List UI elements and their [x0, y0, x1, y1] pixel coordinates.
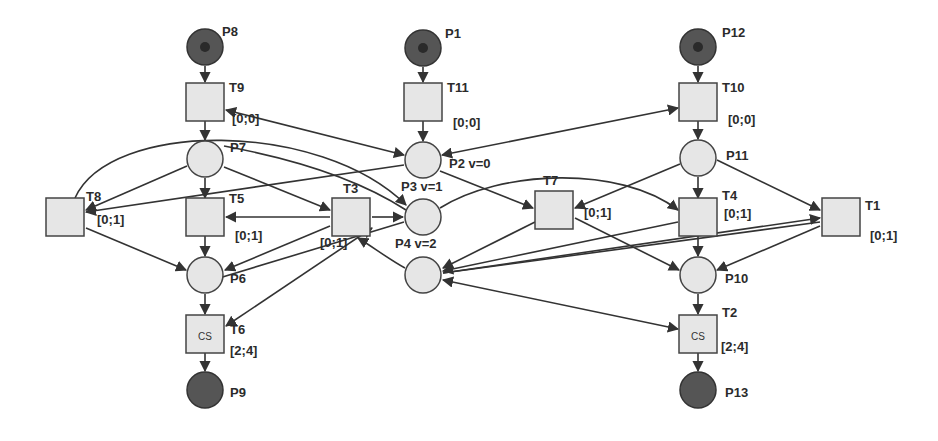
transition-box[interactable] — [186, 83, 224, 121]
arc — [440, 171, 533, 208]
place-p13[interactable]: P13 — [680, 372, 748, 408]
arc — [443, 280, 678, 329]
transition-interval: [0;0] — [453, 115, 480, 130]
place-label: P13 — [725, 385, 748, 400]
transition-interval: [2;4] — [230, 343, 257, 358]
place-circle[interactable] — [187, 372, 223, 408]
transition-t2[interactable]: CST2[2;4] — [679, 305, 748, 354]
place-circle[interactable] — [405, 199, 441, 235]
transition-label: T9 — [229, 80, 244, 95]
place-circle[interactable] — [187, 141, 223, 177]
transition-interval: [0;0] — [728, 112, 755, 127]
transition-box[interactable] — [46, 198, 84, 236]
transition-label: T4 — [722, 188, 738, 203]
token-icon — [200, 42, 210, 52]
transition-box[interactable] — [186, 198, 224, 236]
transition-box[interactable] — [679, 198, 717, 236]
place-p6[interactable]: P6 — [187, 257, 246, 293]
transition-label: T2 — [722, 305, 737, 320]
transition-box[interactable] — [404, 83, 442, 121]
transition-box[interactable] — [822, 198, 860, 236]
transition-t6[interactable]: CST6[2;4] — [186, 315, 257, 358]
place-circle[interactable] — [405, 142, 441, 178]
transition-inner-label: CS — [691, 331, 705, 342]
transition-label: T10 — [722, 80, 744, 95]
token-icon — [693, 42, 703, 52]
transition-inner-label: CS — [198, 331, 212, 342]
place-p9[interactable]: P9 — [187, 372, 246, 408]
transition-interval: [0;1] — [320, 235, 347, 250]
arc — [717, 226, 820, 270]
place-p10[interactable]: P10 — [680, 257, 748, 293]
place-label: P7 — [230, 140, 246, 155]
transition-t9[interactable]: T9[0;0] — [186, 80, 259, 126]
transition-label: T3 — [343, 181, 358, 196]
transition-interval: [0;1] — [870, 228, 897, 243]
petri-net-diagram: P8P7P6P9P1P2 v=0P3 v=1P4 v=2P12P11P10P13… — [0, 0, 938, 441]
place-p4[interactable]: P4 v=2 — [395, 236, 441, 293]
transition-t11[interactable]: T11[0;0] — [404, 80, 480, 130]
place-label: P6 — [230, 271, 246, 286]
place-p8[interactable]: P8 — [187, 24, 238, 65]
place-circle[interactable] — [680, 257, 716, 293]
transition-interval: [0;1] — [584, 205, 611, 220]
place-p12[interactable]: P12 — [680, 25, 745, 65]
place-circle[interactable] — [187, 257, 223, 293]
arc — [86, 228, 186, 270]
transition-box[interactable] — [679, 83, 717, 121]
transition-interval: [0;1] — [724, 206, 751, 221]
token-icon — [418, 43, 428, 53]
transition-interval: [0;1] — [97, 212, 124, 227]
arc — [443, 218, 820, 273]
place-label: P1 — [445, 26, 461, 41]
place-label: P2 v=0 — [449, 156, 491, 171]
place-circle[interactable] — [680, 372, 716, 408]
place-circle[interactable] — [680, 140, 716, 176]
transition-t8[interactable]: T8[0;1] — [46, 189, 124, 236]
place-label: P12 — [722, 25, 745, 40]
transition-t3[interactable]: T3[0;1] — [320, 181, 370, 250]
transition-t1[interactable]: T1[0;1] — [822, 198, 897, 243]
transition-label: T11 — [447, 80, 469, 95]
transition-interval: [2;4] — [721, 339, 748, 354]
transition-label: T7 — [543, 173, 558, 188]
transitions-layer: T9[0;0]T5[0;1]CST6[2;4]T8[0;1]T3[0;1]T11… — [46, 80, 897, 358]
transition-t7[interactable]: T7[0;1] — [535, 173, 611, 229]
place-label: P8 — [222, 24, 238, 39]
place-label: P11 — [726, 148, 748, 163]
place-p1[interactable]: P1 — [405, 26, 461, 66]
transition-interval: [0;0] — [232, 111, 259, 126]
transition-label: T1 — [865, 198, 880, 213]
place-p3[interactable]: P3 v=1 — [401, 179, 443, 235]
place-label: P9 — [230, 385, 246, 400]
transition-label: T8 — [86, 189, 101, 204]
place-circle[interactable] — [405, 257, 441, 293]
place-label: P3 v=1 — [401, 179, 443, 194]
transition-label: T6 — [230, 322, 245, 337]
transition-interval: [0;1] — [235, 228, 262, 243]
place-label: P10 — [725, 271, 748, 286]
transition-box[interactable] — [332, 198, 370, 236]
transition-label: T5 — [229, 191, 244, 206]
place-label: P4 v=2 — [395, 236, 437, 251]
transition-box[interactable] — [535, 191, 573, 229]
transition-t10[interactable]: T10[0;0] — [679, 80, 755, 127]
